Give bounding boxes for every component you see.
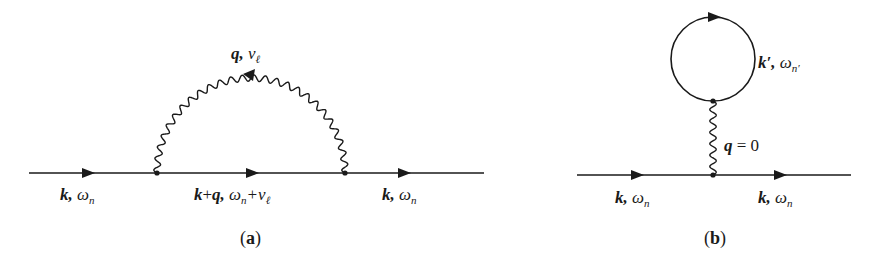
caption-b: (b) <box>704 229 726 247</box>
vertex-dot <box>710 172 715 177</box>
freq-subscript: n <box>787 197 793 209</box>
vertex-dot <box>154 170 159 175</box>
freq-omega: ω <box>632 188 644 207</box>
separator: , <box>767 188 771 207</box>
freq-subscript: n′ <box>792 62 800 74</box>
arrow-right-icon <box>246 168 259 178</box>
label-outgoing-b: k, ωn <box>758 189 793 206</box>
caption-letter: a <box>246 228 255 248</box>
momentum-k: k <box>758 188 767 207</box>
wavy-boson-arc <box>154 75 348 173</box>
separator: , <box>391 185 395 204</box>
momentum-k: k <box>194 185 203 204</box>
label-incoming-b: k, ωn <box>615 189 650 206</box>
plus-sign: + <box>203 185 213 204</box>
fermion-loop <box>671 17 755 101</box>
diagram-b <box>577 12 851 180</box>
freq-subscript: n <box>89 194 95 206</box>
freq-subscript: n <box>411 194 417 206</box>
caption-a: (a) <box>240 229 261 247</box>
freq-subscript: n <box>241 194 247 206</box>
caption-close-paren: ) <box>255 228 261 248</box>
label-boson-a: q, νℓ <box>231 45 260 62</box>
vertex-dot <box>710 98 715 103</box>
label-internal-a: k+q, ωn+νℓ <box>194 186 270 203</box>
feynman-diagrams-canvas <box>0 0 874 267</box>
momentum-k: k <box>382 185 391 204</box>
equals-zero: = 0 <box>737 136 759 155</box>
label-boson-b: q = 0 <box>724 137 759 154</box>
freq-plus-nu: +ν <box>247 185 266 204</box>
momentum-q: q <box>212 185 221 204</box>
freq-omega: ω <box>77 185 89 204</box>
separator: , <box>69 185 73 204</box>
wavy-boson-vertical <box>710 101 716 175</box>
arrow-right-icon <box>82 168 95 178</box>
freq-subscript: ℓ <box>256 53 261 65</box>
freq-subscript: ℓ <box>266 194 271 206</box>
momentum-k: k <box>60 185 69 204</box>
separator: , <box>771 53 775 72</box>
arrow-right-icon <box>631 170 644 180</box>
diagram-a <box>29 69 484 178</box>
separator: , <box>624 188 628 207</box>
arrow-right-icon <box>774 170 787 180</box>
freq-omega: ω <box>399 185 411 204</box>
momentum-q: q <box>231 44 240 63</box>
arrow-right-icon <box>708 12 721 22</box>
freq-omega: ω <box>775 188 787 207</box>
separator: , <box>221 185 225 204</box>
momentum-k: k <box>615 188 624 207</box>
arrow-right-icon <box>398 168 411 178</box>
arrow-left-icon <box>243 69 255 81</box>
separator: , <box>240 44 244 63</box>
momentum-k-prime: k′ <box>758 53 771 72</box>
label-loop-b: k′, ωn′ <box>758 54 800 71</box>
freq-omega: ω <box>780 53 792 72</box>
label-incoming-a: k, ωn <box>60 186 95 203</box>
caption-close-paren: ) <box>720 228 726 248</box>
momentum-q: q <box>724 136 733 155</box>
freq-subscript: n <box>644 197 650 209</box>
caption-letter: b <box>710 228 720 248</box>
label-outgoing-a: k, ωn <box>382 186 417 203</box>
freq-omega: ω <box>229 185 241 204</box>
vertex-dot <box>342 170 347 175</box>
freq-nu: ν <box>248 44 256 63</box>
